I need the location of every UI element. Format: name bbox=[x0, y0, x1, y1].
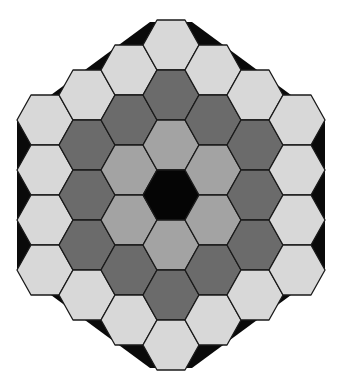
hex-cells-group bbox=[17, 20, 325, 370]
hexagon-ring-diagram bbox=[0, 0, 339, 388]
